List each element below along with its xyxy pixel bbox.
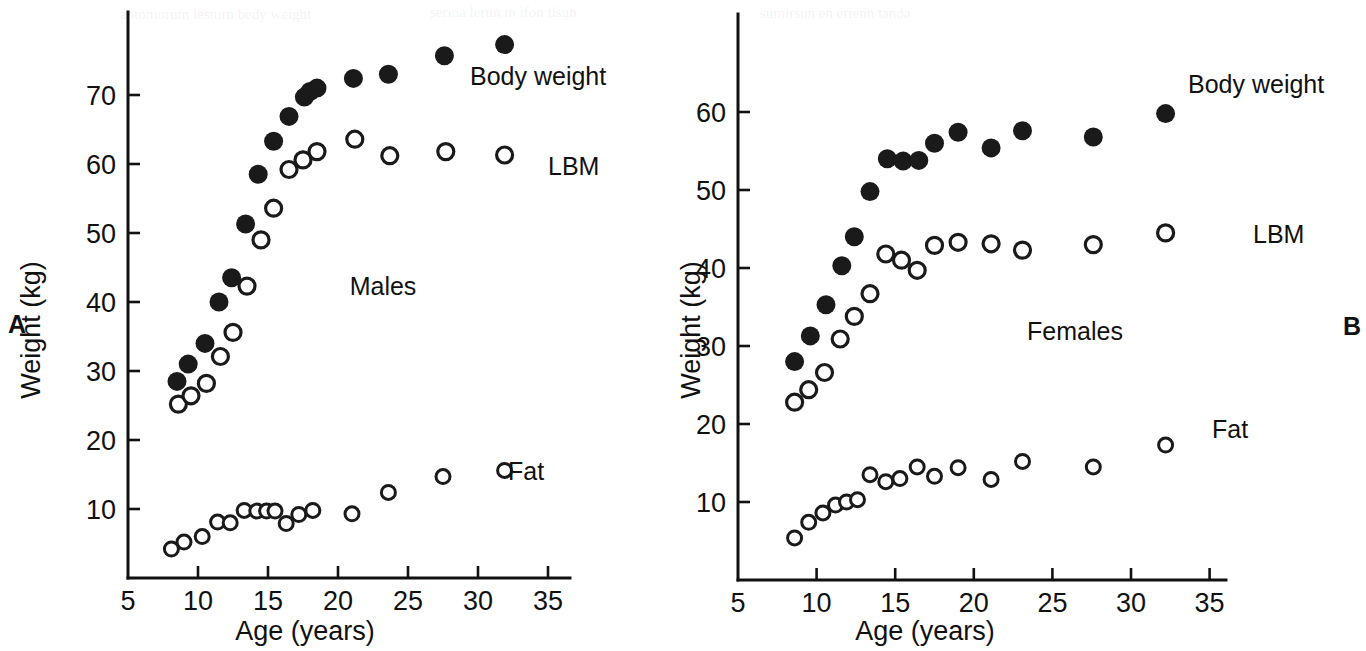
x-tick-label: 15 [253, 586, 283, 616]
data-point [801, 382, 817, 398]
data-point [382, 148, 398, 164]
data-point [225, 324, 241, 340]
y-tick-label: 50 [86, 219, 116, 249]
data-point [894, 252, 910, 268]
data-point [984, 472, 998, 486]
data-point [249, 165, 268, 184]
data-point [268, 504, 282, 518]
data-point [179, 355, 198, 374]
data-point [1084, 128, 1103, 147]
series-label-lbm: LBM [548, 152, 599, 180]
y-tick-label: 50 [696, 176, 726, 206]
y-tick-label: 30 [86, 357, 116, 387]
data-point [878, 246, 894, 262]
scatter-plot-canvas: 102030405060705101520253035Weight (kg)Ag… [0, 0, 1366, 651]
data-point [846, 308, 862, 324]
data-point [379, 65, 398, 84]
series-label-bw: Body weight [470, 62, 606, 90]
y-axis-title: Weight (kg) [16, 261, 46, 399]
data-point [168, 372, 187, 391]
data-point [1015, 242, 1031, 258]
data-point [851, 493, 865, 507]
data-point [861, 182, 880, 201]
y-tick-label: 60 [86, 150, 116, 180]
data-point [832, 331, 848, 347]
data-point [198, 375, 214, 391]
x-tick-label: 25 [1037, 588, 1067, 618]
data-point [949, 123, 968, 142]
series-label-fat: Fat [1212, 415, 1248, 443]
x-tick-label: 30 [1116, 588, 1146, 618]
data-point [1013, 121, 1032, 140]
data-point [845, 227, 864, 246]
data-point [497, 147, 513, 163]
y-tick-label: 70 [86, 81, 116, 111]
data-point [306, 503, 320, 517]
x-tick-label: 35 [1195, 588, 1225, 618]
data-point [788, 531, 802, 545]
data-point [910, 460, 924, 474]
chart-females: 1020304050605101520253035Weight (kg)Age … [676, 14, 1324, 646]
series-label-fat: Fat [508, 457, 544, 485]
data-point [1159, 438, 1173, 452]
data-point [280, 107, 299, 126]
data-point [909, 262, 925, 278]
y-tick-label: 20 [696, 410, 726, 440]
data-point [817, 365, 833, 381]
data-point [253, 232, 269, 248]
data-point [1085, 237, 1101, 253]
data-point [817, 295, 836, 314]
group-label: Females [1027, 317, 1123, 345]
figure-container: antomorum lesturn bedy weight serina ler… [0, 0, 1366, 651]
data-point [982, 138, 1001, 157]
data-point [309, 144, 325, 160]
data-point [177, 535, 191, 549]
x-axis-title: Age (years) [855, 616, 995, 646]
y-axis-title: Weight (kg) [676, 261, 706, 399]
data-point [210, 293, 229, 312]
x-tick-label: 10 [183, 586, 213, 616]
data-point [927, 237, 943, 253]
y-tick-label: 10 [86, 495, 116, 525]
data-point [785, 352, 804, 371]
data-point [863, 468, 877, 482]
data-point [879, 475, 893, 489]
y-tick-label: 10 [696, 488, 726, 518]
x-tick-label: 25 [393, 586, 423, 616]
data-point [381, 485, 395, 499]
data-point [196, 334, 215, 353]
series-fat: Fat [788, 415, 1249, 545]
x-axis-title: Age (years) [235, 616, 375, 646]
data-point [435, 46, 454, 65]
data-point [344, 69, 363, 88]
x-tick-label: 5 [120, 586, 135, 616]
data-point [292, 508, 306, 522]
x-tick-label: 30 [463, 586, 493, 616]
data-point [212, 349, 228, 365]
data-point [264, 132, 283, 151]
x-tick-label: 20 [959, 588, 989, 618]
data-point [862, 286, 878, 302]
data-point [345, 507, 359, 521]
data-point [495, 35, 514, 54]
x-tick-label: 5 [730, 588, 745, 618]
data-point [266, 200, 282, 216]
data-point [347, 131, 363, 147]
data-point [909, 151, 928, 170]
x-tick-label: 15 [880, 588, 910, 618]
x-tick-label: 35 [533, 586, 563, 616]
y-tick-label: 20 [86, 426, 116, 456]
series-lbm: LBM [787, 220, 1305, 410]
data-point [279, 517, 293, 531]
data-point [802, 515, 816, 529]
y-tick-label: 40 [86, 288, 116, 318]
data-point [950, 234, 966, 250]
data-point [195, 530, 209, 544]
data-point [893, 472, 907, 486]
data-point [925, 134, 944, 153]
series-fat: Fat [164, 457, 544, 556]
data-point [436, 470, 450, 484]
data-point [1016, 454, 1030, 468]
data-point [928, 469, 942, 483]
series-label-bw: Body weight [1188, 70, 1324, 98]
